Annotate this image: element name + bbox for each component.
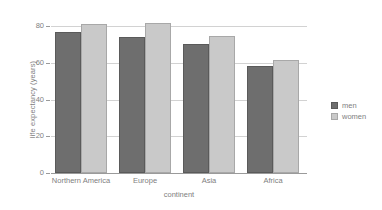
- x-axis-title: continent: [0, 190, 358, 199]
- x-axis-tick-label: Africa: [263, 176, 282, 185]
- legend-item: women: [331, 111, 366, 121]
- x-axis-tick-label: Asia: [202, 176, 217, 185]
- y-axis-tick-mark: [46, 63, 50, 64]
- legend-swatch-men: [331, 102, 338, 109]
- y-axis-tick-label: 0: [26, 168, 44, 178]
- x-axis-line: [51, 173, 307, 174]
- legend-swatch-women: [331, 113, 338, 120]
- y-axis-tick-mark: [46, 26, 50, 27]
- y-axis-tick-label-text: 60: [36, 58, 44, 67]
- y-axis-tick-mark: [46, 100, 50, 101]
- y-axis-tick-label-text: 20: [36, 131, 44, 140]
- legend-label: men: [342, 101, 357, 110]
- y-axis-tick-label-text: 80: [36, 21, 44, 30]
- chart-legend: menwomen: [331, 100, 366, 122]
- bar-women: [273, 60, 299, 173]
- y-axis-tick-label-text: 0: [40, 168, 44, 177]
- y-axis-tick-mark: [46, 173, 50, 174]
- bar-women: [81, 24, 107, 173]
- y-axis-tick-label: 20: [26, 131, 44, 141]
- legend-label: women: [342, 112, 366, 121]
- y-axis-tick-label: 60: [26, 58, 44, 68]
- bar-chart: life expectancy (years) 020406080 Northe…: [0, 0, 382, 210]
- y-axis-tick-label-text: 40: [36, 95, 44, 104]
- y-axis-tick-label: 80: [26, 21, 44, 31]
- legend-item: men: [331, 100, 366, 110]
- x-axis-tick-label: Northern America: [52, 176, 110, 185]
- bar-men: [119, 37, 145, 173]
- bar-women: [209, 36, 235, 173]
- y-axis-tick-mark: [46, 136, 50, 137]
- bar-men: [55, 32, 81, 173]
- y-axis-tick-label: 40: [26, 95, 44, 105]
- plot-area: [51, 17, 307, 173]
- bar-men: [183, 44, 209, 173]
- x-axis-tick-label: Europe: [133, 176, 157, 185]
- bar-women: [145, 23, 171, 173]
- bar-men: [247, 66, 273, 173]
